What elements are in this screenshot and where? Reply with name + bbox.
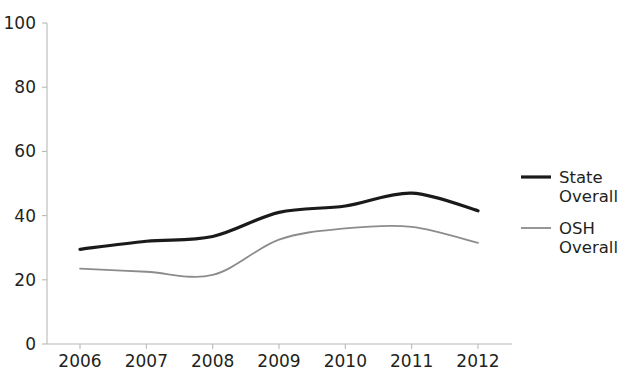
legend-label-state-overall: State [559,168,603,187]
legend-label-osh-overall-line2: Overall [559,238,618,257]
x-tick-label: 2009 [257,351,300,371]
x-tick-label: 2010 [324,351,367,371]
x-tick-label: 2006 [58,351,101,371]
y-tick-label: 60 [14,141,36,161]
line-chart: 0204060801002006200720082009201020112012… [0,0,628,383]
y-tick-label: 20 [14,270,36,290]
legend-label-state-overall-line2: Overall [559,187,618,206]
x-tick-label: 2011 [390,351,433,371]
x-tick-label: 2012 [456,351,499,371]
chart-canvas: 0204060801002006200720082009201020112012… [0,0,628,383]
legend-label-osh-overall: OSH [559,219,595,238]
x-tick-label: 2008 [191,351,234,371]
y-tick-label: 0 [25,334,36,354]
y-tick-label: 100 [4,13,36,33]
y-tick-label: 40 [14,206,36,226]
x-tick-label: 2007 [125,351,168,371]
y-tick-label: 80 [14,77,36,97]
series-line-osh-overall [80,226,478,277]
series-line-state-overall [80,193,478,249]
